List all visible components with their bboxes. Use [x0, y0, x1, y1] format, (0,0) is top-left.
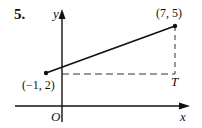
y-axis-label: y [51, 6, 59, 21]
problem-number: 5. [14, 6, 26, 22]
y-axis-arrow-icon [59, 9, 66, 19]
origin-label: O [51, 109, 61, 124]
corner-point-label: T [171, 74, 179, 89]
point-start-dot [44, 71, 48, 75]
coordinate-diagram: 5. y x O (−1, 2) (7, 5) T [0, 0, 202, 128]
point-start-label: (−1, 2) [22, 78, 55, 92]
point-end-dot [173, 24, 177, 28]
line-segment [46, 26, 175, 73]
x-axis-label: x [179, 109, 186, 124]
point-end-label: (7, 5) [156, 6, 182, 20]
